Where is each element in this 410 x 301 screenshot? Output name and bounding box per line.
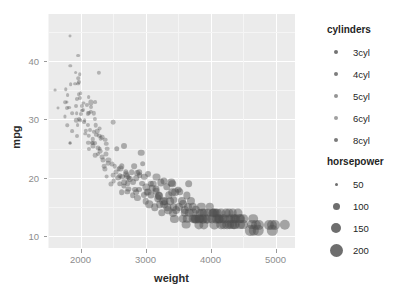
data-point <box>153 188 160 195</box>
vertical-gridline <box>81 14 82 248</box>
data-point <box>140 161 146 167</box>
vertical-gridline <box>113 14 114 248</box>
data-point <box>168 180 175 187</box>
horsepower-legend-item: 200 <box>327 239 384 261</box>
y-axis-tick <box>44 119 48 120</box>
data-point <box>56 106 59 109</box>
x-axis-tick <box>211 249 212 253</box>
data-point <box>194 214 203 223</box>
data-point <box>87 95 91 99</box>
legend-key-dot-icon <box>327 72 345 76</box>
data-point <box>66 93 70 97</box>
data-point <box>97 126 102 131</box>
cylinders-legend-item: 6cyl <box>327 107 371 129</box>
data-point <box>119 163 124 168</box>
legend-horsepower: horsepower 50100150200 <box>327 156 384 261</box>
legend-key-dot-icon <box>327 203 345 210</box>
data-point <box>93 100 97 104</box>
legend-key-dot-icon <box>327 94 345 98</box>
vertical-gridline <box>276 14 277 248</box>
plot-panel <box>48 14 295 248</box>
data-point <box>124 173 130 179</box>
horsepower-legend-item: 150 <box>327 217 384 239</box>
x-axis-tick <box>146 249 147 253</box>
cylinders-legend-label: 4cyl <box>353 69 370 80</box>
data-point <box>76 123 80 127</box>
data-point <box>74 71 78 75</box>
data-point <box>81 108 85 112</box>
data-point <box>134 195 140 201</box>
data-point <box>104 174 109 179</box>
data-point <box>136 187 142 193</box>
legend-cylinders-rows: 3cyl4cyl5cyl6cyl8cyl <box>327 41 371 151</box>
data-point <box>69 82 73 86</box>
cylinders-legend-item: 8cyl <box>327 129 371 151</box>
y-axis-tick-label: 20 <box>15 172 39 183</box>
data-point <box>75 134 79 138</box>
cylinders-legend-label: 6cyl <box>353 113 370 124</box>
x-axis-label: weight <box>48 272 295 284</box>
horsepower-legend-label: 200 <box>353 245 369 256</box>
y-axis-tick-label: 10 <box>15 231 39 242</box>
cylinders-legend-label: 8cyl <box>353 135 370 146</box>
data-point <box>63 115 66 118</box>
vertical-gridline <box>48 14 49 248</box>
legend-key-dot-icon <box>327 223 345 233</box>
data-point <box>64 88 67 91</box>
horsepower-legend-label: 50 <box>353 179 364 190</box>
data-point <box>66 100 69 103</box>
data-point <box>78 72 82 76</box>
data-point <box>132 163 138 169</box>
data-point <box>89 105 93 109</box>
data-point <box>86 123 90 127</box>
data-point <box>54 89 57 92</box>
cylinders-legend-label: 5cyl <box>353 91 370 102</box>
x-axis-tick <box>276 249 277 253</box>
x-axis-tick-label: 2000 <box>70 254 91 265</box>
data-point <box>145 171 151 177</box>
data-point <box>83 119 87 123</box>
data-point <box>98 149 103 154</box>
horsepower-legend-label: 150 <box>353 223 369 234</box>
scatter-plot-figure: 200030004000500010203040 weight mpg cyli… <box>0 0 410 301</box>
legend-key-dot-icon <box>327 50 345 54</box>
horizontal-gridline <box>48 61 295 62</box>
y-axis-label: mpg <box>10 107 22 167</box>
y-axis-tick <box>44 61 48 62</box>
data-point <box>114 146 119 151</box>
legend-key-dot-icon <box>327 116 345 120</box>
vertical-gridline <box>243 14 244 248</box>
legend-key-dot-icon <box>327 138 345 142</box>
data-point <box>121 143 127 149</box>
cylinders-legend-item: 3cyl <box>327 41 371 63</box>
y-axis-tick <box>44 236 48 237</box>
data-point <box>79 91 83 95</box>
horizontal-gridline <box>48 149 295 150</box>
data-point <box>69 64 72 67</box>
data-point <box>279 219 289 229</box>
data-point <box>102 166 107 171</box>
data-point <box>79 112 83 116</box>
data-point <box>76 54 80 58</box>
horizontal-gridline <box>48 90 295 91</box>
data-point <box>70 112 74 116</box>
data-point <box>185 180 193 188</box>
data-point <box>93 117 97 121</box>
cylinders-legend-item: 4cyl <box>327 63 371 85</box>
legend-cylinders: cylinders 3cyl4cyl5cyl6cyl8cyl <box>327 24 371 151</box>
legend-horsepower-title: horsepower <box>327 156 384 167</box>
x-axis-tick-label: 4000 <box>200 254 221 265</box>
data-point <box>65 123 68 126</box>
horizontal-gridline <box>48 236 295 237</box>
data-point <box>96 70 100 74</box>
data-point <box>87 111 91 115</box>
data-point <box>138 149 145 156</box>
data-point <box>105 146 110 151</box>
data-point <box>126 186 131 191</box>
vertical-gridline <box>146 14 147 248</box>
data-point <box>92 111 96 115</box>
data-point <box>67 106 71 110</box>
x-axis-tick-label: 5000 <box>265 254 286 265</box>
data-point <box>111 120 116 125</box>
data-point <box>254 220 264 230</box>
